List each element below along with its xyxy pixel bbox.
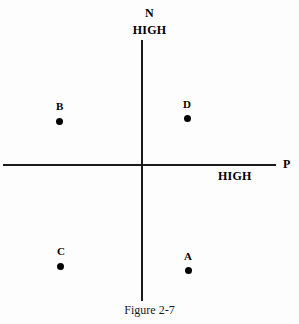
axis-label-p-high: HIGH bbox=[218, 170, 251, 182]
point-marker-a bbox=[185, 267, 192, 274]
point-label-c: C bbox=[57, 246, 65, 257]
figure-caption: Figure 2-7 bbox=[0, 304, 299, 316]
vertical-axis-n bbox=[141, 40, 143, 301]
axis-label-n-high: HIGH bbox=[0, 24, 299, 36]
point-marker-b bbox=[56, 118, 63, 125]
axis-label-p: P bbox=[283, 158, 290, 170]
point-label-d: D bbox=[183, 99, 191, 110]
figure-2-7-diagram: N HIGH P HIGH B D C A Figure 2-7 bbox=[0, 0, 299, 324]
point-label-b: B bbox=[56, 101, 63, 112]
axis-label-n: N bbox=[0, 7, 299, 19]
point-label-a: A bbox=[184, 251, 192, 262]
point-marker-d bbox=[184, 115, 191, 122]
horizontal-axis-p bbox=[3, 164, 276, 166]
point-marker-c bbox=[57, 263, 64, 270]
